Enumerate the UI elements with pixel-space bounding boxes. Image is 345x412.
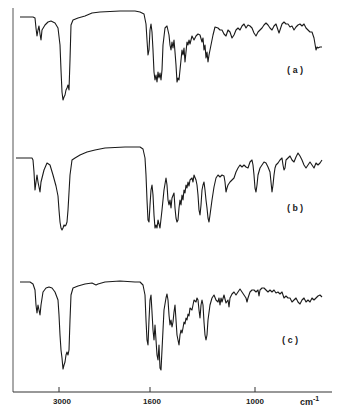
trace-label-b: (b): [286, 204, 305, 214]
trace-label-c: (c): [281, 336, 300, 346]
trace-label-a: (a): [286, 66, 305, 76]
unit-base: cm: [300, 397, 313, 407]
spectrum-trace-c: [20, 281, 322, 370]
x-tick-label-1000: 1000: [246, 397, 264, 406]
spectrum-trace-a: [20, 11, 322, 100]
spectrum-trace-b: [16, 147, 322, 230]
x-tick-label-1600: 1600: [143, 397, 161, 406]
x-axis-unit: cm-1: [300, 395, 319, 407]
unit-exponent: -1: [313, 395, 319, 402]
x-tick-label-3000: 3000: [53, 397, 71, 406]
x-axis-ticks: [59, 387, 255, 392]
